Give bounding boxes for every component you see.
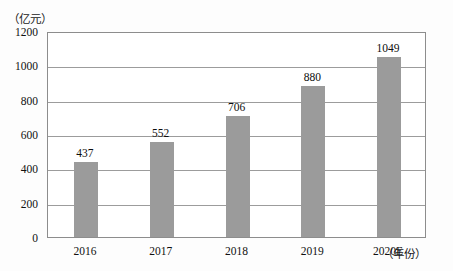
bar-value-label: 552: [133, 127, 189, 139]
y-axis-tick-label: 200: [0, 198, 42, 210]
bar-value-label: 706: [209, 101, 265, 113]
y-axis-tick-label: 1200: [0, 26, 42, 38]
bar: [226, 116, 250, 237]
plot-area: [47, 32, 426, 238]
x-axis-tick-label: 2016: [55, 245, 115, 257]
bar-chart: （亿元） 020040060080010001200 4375527068801…: [0, 0, 453, 271]
y-axis-unit-label: （亿元）: [8, 10, 52, 26]
x-axis-unit-label: （年份）: [382, 245, 426, 261]
bar: [150, 142, 174, 237]
x-axis-tick-label: 2017: [131, 245, 191, 257]
bar-value-label: 1049: [360, 42, 416, 54]
y-axis-tick-label: 600: [0, 129, 42, 141]
bar: [74, 162, 98, 237]
bar: [301, 86, 325, 237]
gridline: [48, 67, 425, 68]
bar-value-label: 880: [284, 71, 340, 83]
x-axis-tick-label: 2018: [207, 245, 267, 257]
x-axis-tick-label: 2019: [282, 245, 342, 257]
bar: [377, 57, 401, 237]
y-axis-tick-label: 800: [0, 95, 42, 107]
bar-value-label: 437: [57, 147, 113, 159]
y-axis-tick-label: 0: [0, 232, 42, 244]
y-axis-tick-label: 1000: [0, 60, 42, 72]
y-axis-tick-label: 400: [0, 163, 42, 175]
